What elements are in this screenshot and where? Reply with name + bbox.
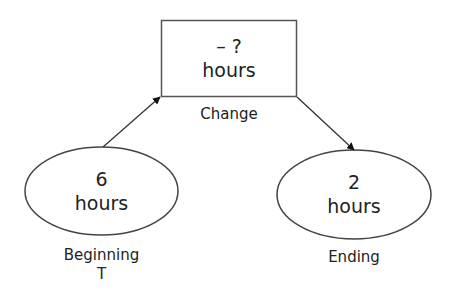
change-node-text: – ? hours <box>161 34 297 82</box>
beginning-caption: Beginning T <box>25 246 178 284</box>
beginning-subcaption: T <box>25 265 178 284</box>
ending-unit: hours <box>277 194 431 218</box>
beginning-value: 6 <box>25 167 178 191</box>
change-value: – ? <box>161 34 297 58</box>
change-caption: Change <box>161 105 297 124</box>
ending-node-text: 2 hours <box>277 170 431 218</box>
arrow-change-to-ending <box>297 97 354 150</box>
ending-value: 2 <box>277 170 431 194</box>
beginning-node-text: 6 hours <box>25 167 178 215</box>
beginning-unit: hours <box>25 191 178 215</box>
beginning-caption-text: Beginning <box>25 246 178 265</box>
ending-caption: Ending <box>277 248 431 267</box>
arrow-beginning-to-change <box>103 97 160 147</box>
change-unit: hours <box>161 58 297 82</box>
